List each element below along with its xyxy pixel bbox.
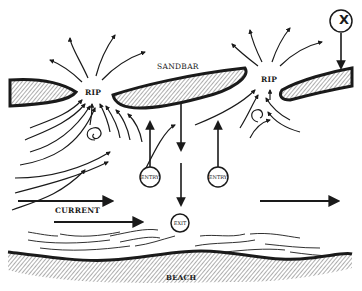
sandbar-left xyxy=(10,80,76,107)
rip-current-diagram: SANDBAR RIP RIP CURRENT BEACH ENTRY ENTR… xyxy=(0,0,362,291)
exit-label: EXIT xyxy=(168,221,192,226)
current-label: CURRENT xyxy=(55,207,100,215)
rip-left-outflow-arrows xyxy=(50,35,145,82)
danger-x-label: X xyxy=(334,13,354,26)
rip-right-swirl xyxy=(252,110,263,122)
entry-arrows xyxy=(150,122,218,168)
rip-left-label: RIP xyxy=(85,89,101,97)
sandbar-middle xyxy=(113,68,246,108)
rip-left-swirl xyxy=(87,128,101,140)
sandbar-label: SANDBAR xyxy=(157,63,199,71)
entry-right-label: ENTRY xyxy=(205,175,231,180)
sandbar-right xyxy=(280,68,352,100)
entry-left-label: ENTRY xyxy=(137,175,163,180)
diagram-canvas xyxy=(0,0,362,291)
rip-right-label: RIP xyxy=(261,76,277,84)
beach-label: BEACH xyxy=(166,274,196,281)
rip-right-outflow-arrows xyxy=(232,28,322,66)
